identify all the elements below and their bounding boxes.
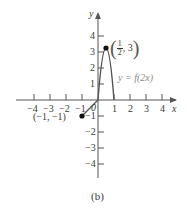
endpoint-annotation: (−1, −1) bbox=[33, 112, 66, 122]
y-axis-arrow-icon bbox=[95, 12, 101, 19]
y-tick-label: −4 bbox=[85, 159, 96, 169]
peak-annotation: (12, 3) bbox=[110, 38, 139, 58]
y-tick-label: −1 bbox=[85, 111, 96, 121]
x-tick-label: 1 bbox=[112, 104, 117, 114]
x-axis-label: x bbox=[172, 104, 176, 114]
curve-label: y = f(2x) bbox=[118, 73, 153, 83]
x-tick-label: 4 bbox=[160, 104, 165, 114]
x-tick-label: 2 bbox=[128, 104, 133, 114]
y-tick-label: 1 bbox=[90, 79, 95, 89]
y-tick-label: −3 bbox=[85, 143, 96, 153]
y-tick-label: 2 bbox=[90, 63, 95, 73]
figure-caption: (b) bbox=[91, 191, 104, 202]
function-graph: y x −4 −3 −2 −1 0 1 2 3 4 4 3 2 1 −1 −2 … bbox=[0, 0, 187, 210]
x-tick-label: 3 bbox=[144, 104, 149, 114]
peak-point bbox=[103, 45, 108, 50]
y-axis-label: y bbox=[89, 9, 93, 19]
y-tick-label: 3 bbox=[90, 47, 95, 57]
endpoint-point bbox=[79, 113, 84, 118]
y-tick-label: −2 bbox=[85, 127, 96, 137]
y-tick-label: 4 bbox=[90, 31, 95, 41]
